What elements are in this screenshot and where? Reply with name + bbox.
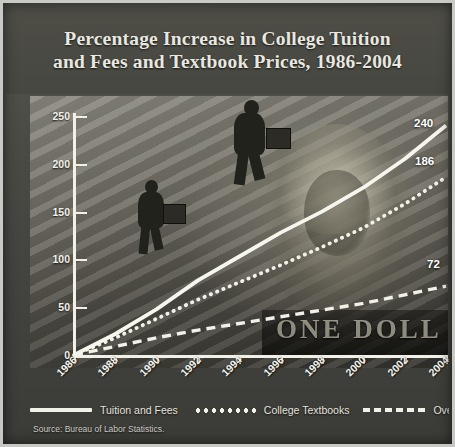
- legend-swatch-solid-icon: [30, 408, 92, 412]
- poster: Percentage Increase in College Tuition a…: [0, 0, 455, 447]
- legend: Tuition and Fees College Textbooks Overa…: [30, 402, 449, 418]
- data-lines: [30, 96, 448, 368]
- title-line-2: and Fees and Textbook Prices, 1986-2004: [53, 50, 402, 73]
- legend-label-tuition-and-fees: Tuition and Fees: [100, 404, 178, 416]
- title-line-1: Percentage Increase in College Tuition: [64, 27, 390, 50]
- legend-item-tuition-and-fees[interactable]: Tuition and Fees: [30, 404, 178, 416]
- end-label-tuition: 240: [414, 117, 433, 129]
- legend-label-college-textbooks: College Textbooks: [264, 404, 350, 416]
- title-bar: Percentage Increase in College Tuition a…: [6, 6, 449, 94]
- series-college-textbooks: [74, 177, 446, 355]
- legend-swatch-dotted-icon: [194, 408, 256, 413]
- legend-item-college-textbooks[interactable]: College Textbooks: [194, 404, 350, 416]
- poster-inner: Percentage Increase in College Tuition a…: [6, 6, 449, 441]
- legend-swatch-dashed-icon: [363, 408, 427, 412]
- source-note: Source: Bureau of Labor Statistics.: [33, 424, 164, 434]
- end-label-textbooks: 186: [415, 155, 434, 167]
- series-tuition-and-fees: [74, 126, 446, 355]
- plot-area: 250 200 150 100 50 0 1986 1988 1990 1992…: [30, 96, 448, 368]
- legend-item-overall-prices[interactable]: Overall Prices: [363, 404, 449, 416]
- legend-label-overall-prices: Overall Prices: [433, 404, 449, 416]
- end-label-overall: 72: [427, 258, 440, 270]
- series-overall-prices: [74, 286, 446, 355]
